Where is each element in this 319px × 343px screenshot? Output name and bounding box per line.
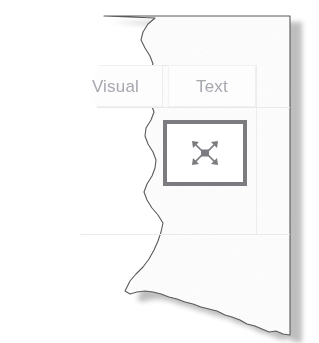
tab-visual-label: Visual (92, 78, 139, 95)
screenshot-canvas: Visual Text (0, 0, 319, 343)
tab-text[interactable]: Text (168, 65, 256, 107)
rule-column-divider (256, 65, 257, 235)
rule-panel-divider (44, 234, 290, 235)
expand-arrows-icon (188, 137, 222, 169)
tab-text-label: Text (196, 78, 228, 95)
fit-to-screen-button[interactable] (163, 120, 247, 186)
